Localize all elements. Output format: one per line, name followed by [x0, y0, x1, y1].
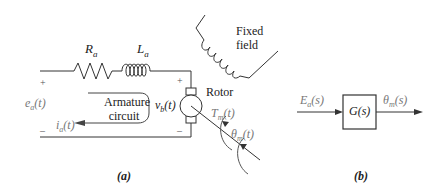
minus-sign-left: – — [40, 125, 45, 136]
input-voltage-label: ea(t) — [25, 97, 46, 112]
plus-sign-motor: + — [177, 75, 183, 86]
output-signal-label: θm(s) — [383, 94, 407, 109]
field-label: Fixedfield — [236, 25, 263, 51]
inductor-label: La — [137, 42, 149, 59]
motor-brush-top — [186, 88, 196, 95]
input-signal-label: Ea(s) — [300, 94, 324, 109]
current-arrow-icon — [74, 120, 85, 126]
caption-a: (a) — [117, 169, 131, 184]
plus-sign-left: + — [40, 77, 46, 88]
output-arrow-icon — [414, 109, 423, 115]
field-coil-icon — [202, 40, 240, 78]
transfer-function-label: G(s) — [349, 105, 370, 117]
resistor-icon — [74, 63, 112, 79]
field-lead-top — [196, 15, 205, 40]
minus-sign-motor: – — [177, 125, 182, 136]
current-label: ia(t) — [56, 119, 75, 134]
wire-top-right — [150, 71, 191, 88]
caption-b: (b) — [354, 169, 368, 184]
torque-label: Tm(t) — [211, 107, 235, 122]
resistor-label: Ra — [85, 42, 97, 59]
input-arrow-icon — [335, 109, 343, 115]
back-emf-label: vb(t) — [155, 99, 176, 114]
angle-label: θm(t) — [231, 128, 254, 143]
rotor-label: Rotor — [206, 86, 233, 98]
field-lead-bottom — [240, 51, 278, 78]
inductor-icon — [122, 64, 150, 76]
armature-label: Armaturecircuit — [104, 96, 144, 122]
angle-arc — [238, 138, 248, 174]
